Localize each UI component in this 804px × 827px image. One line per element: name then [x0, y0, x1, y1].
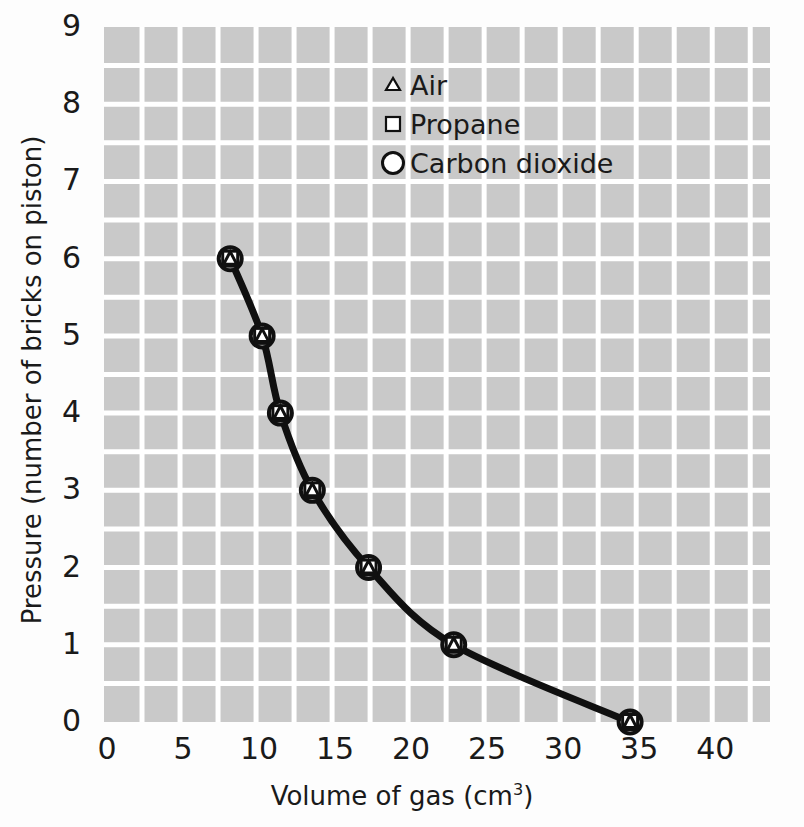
legend-item: Carbon dioxide [376, 148, 613, 178]
chart-figure: Pressure (number of bricks on piston) 01… [0, 0, 804, 827]
data-point-marker [251, 324, 274, 347]
data-point-marker [357, 556, 380, 579]
x-tick-label: 10 [240, 734, 278, 764]
y-tick-label: 2 [62, 552, 81, 582]
x-tick-label: 5 [173, 734, 192, 764]
x-tick-label: 25 [468, 734, 506, 764]
legend-item: Propane [376, 109, 613, 139]
data-point-marker [301, 479, 324, 502]
x-axis-label-superscript: 3 [513, 780, 523, 799]
x-tick-label: 30 [544, 734, 582, 764]
y-tick-label: 0 [62, 706, 81, 736]
x-axis-label-base: Volume of gas (cm [271, 781, 513, 811]
x-tick-label: 35 [620, 734, 658, 764]
x-tick-label: 20 [392, 734, 430, 764]
data-point-marker [219, 247, 242, 270]
legend-item-label: Propane [410, 109, 520, 140]
y-tick-label: 5 [62, 320, 81, 350]
y-tick-label: 3 [62, 474, 81, 504]
legend-item-label: Air [410, 70, 447, 101]
circle-marker-icon [376, 148, 410, 178]
y-tick-label: 7 [62, 165, 81, 195]
y-axis-label: Pressure (number of bricks on piston) [17, 136, 47, 625]
x-tick-label: 15 [316, 734, 354, 764]
y-tick-label: 6 [62, 243, 81, 273]
x-axis-label-tail: ) [523, 781, 533, 811]
legend-item: Air [376, 70, 613, 100]
data-point-marker [442, 633, 465, 656]
legend: AirPropaneCarbon dioxide [376, 70, 613, 178]
triangle-marker-icon [376, 70, 410, 100]
y-axis-label-container: Pressure (number of bricks on piston) [10, 0, 54, 760]
legend-item-label: Carbon dioxide [410, 148, 613, 179]
series-line [230, 259, 630, 722]
x-tick-label: 0 [97, 734, 116, 764]
x-axis-label: Volume of gas (cm3) [0, 780, 804, 811]
y-tick-label: 1 [62, 629, 81, 659]
data-point-marker [269, 402, 292, 425]
y-tick-label: 4 [62, 397, 81, 427]
y-tick-label: 8 [62, 88, 81, 118]
x-tick-label: 40 [696, 734, 734, 764]
y-tick-label: 9 [62, 11, 81, 41]
square-marker-icon [376, 109, 410, 139]
